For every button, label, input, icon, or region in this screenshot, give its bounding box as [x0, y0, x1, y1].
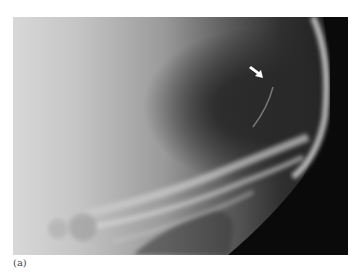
skull-structures	[13, 17, 348, 255]
arrow-down-right-icon	[248, 65, 264, 79]
figure-label: (a)	[13, 257, 27, 268]
xray-image	[13, 17, 348, 255]
